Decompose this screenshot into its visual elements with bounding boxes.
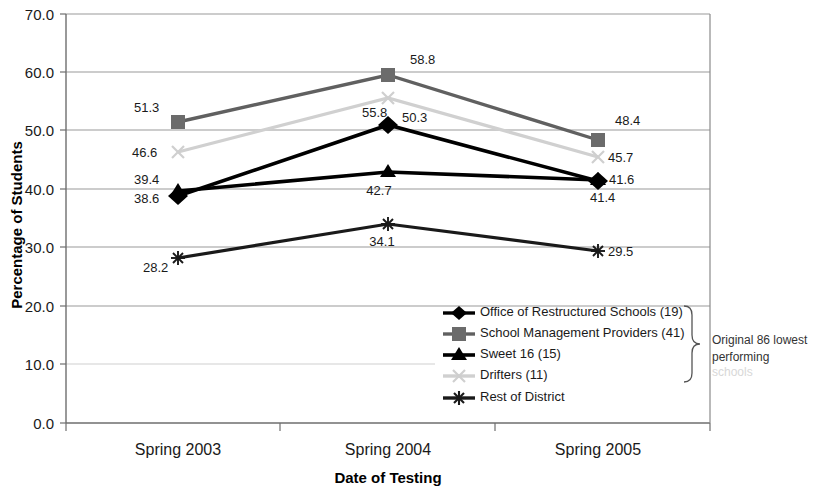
curly-brace-icon: [684, 306, 700, 382]
ytick-label-20: 20.0: [25, 298, 54, 315]
marker-smp-2003: [171, 115, 185, 129]
x-tick-marks: [66, 423, 710, 431]
legend-item-rest-of-district[interactable]: Rest of District: [443, 389, 565, 405]
data-label-office-2005: 41.4: [590, 190, 615, 205]
series-rest-of-district: 28.2 34.1 29.5: [143, 217, 633, 275]
ytick-label-70: 70.0: [25, 6, 54, 23]
y-axis-title: Percentage of Students: [8, 141, 25, 309]
annotation-line-3: schools: [712, 365, 753, 379]
data-label-smp-2003: 51.3: [134, 100, 159, 115]
chart-legend: Office of Restructured Schools (19) Scho…: [443, 304, 685, 405]
data-label-sweet16-2003: 39.4: [134, 172, 159, 187]
x-axis-title: Date of Testing: [334, 469, 441, 486]
y-tick-marks: [60, 14, 66, 423]
annotation-line-1: Original 86 lowest: [712, 333, 808, 347]
ytick-label-60: 60.0: [25, 64, 54, 81]
data-label-drifters-2005: 45.7: [608, 150, 633, 165]
data-label-rest-2004: 34.1: [369, 234, 394, 249]
data-label-rest-2005: 29.5: [608, 244, 633, 259]
legend-label-smp: School Management Providers (41): [480, 325, 685, 340]
line-chart: 70.0 60.0 50.0 40.0 30.0 20.0 10.0 0.0 P…: [0, 0, 820, 490]
ytick-label-50: 50.0: [25, 122, 54, 139]
data-label-sweet16-2005: 41.6: [609, 172, 634, 187]
data-label-smp-2005: 48.4: [615, 113, 640, 128]
legend-item-office-of-restructured-schools[interactable]: Office of Restructured Schools (19): [443, 304, 683, 320]
xtick-label-spring-2003: Spring 2003: [135, 441, 221, 458]
marker-rest-2004: [381, 217, 395, 231]
legend-marker-asterisk-icon: [452, 391, 466, 405]
chart-container: 70.0 60.0 50.0 40.0 30.0 20.0 10.0 0.0 P…: [0, 0, 820, 490]
marker-rest-2003: [171, 251, 185, 265]
legend-label-sweet16: Sweet 16 (15): [480, 346, 561, 361]
ytick-label-40: 40.0: [25, 181, 54, 198]
legend-label-rest: Rest of District: [480, 389, 565, 404]
legend-marker-diamond-icon: [451, 306, 467, 320]
marker-smp-2005: [591, 133, 605, 147]
legend-item-sweet-16[interactable]: Sweet 16 (15): [443, 346, 561, 361]
legend-marker-square-icon: [452, 327, 466, 341]
brace-annotation: Original 86 lowest performing schools: [684, 306, 808, 382]
data-label-drifters-2003: 46.6: [132, 145, 157, 160]
legend-item-school-management-providers[interactable]: School Management Providers (41): [443, 325, 685, 341]
ytick-label-0: 0.0: [33, 415, 54, 432]
data-label-rest-2003: 28.2: [143, 260, 168, 275]
marker-rest-2005: [591, 244, 605, 258]
data-label-office-2003: 38.6: [134, 191, 159, 206]
annotation-line-2: performing: [712, 350, 769, 364]
marker-office-2005: [588, 172, 608, 190]
legend-item-drifters[interactable]: Drifters (11): [443, 367, 548, 382]
y-axis-tick-labels: 70.0 60.0 50.0 40.0 30.0 20.0 10.0 0.0: [25, 6, 54, 432]
legend-label-office: Office of Restructured Schools (19): [480, 304, 683, 319]
data-label-sweet16-2004: 42.7: [366, 183, 391, 198]
ytick-label-30: 30.0: [25, 239, 54, 256]
xtick-label-spring-2005: Spring 2005: [555, 441, 641, 458]
data-label-smp-2004: 58.8: [410, 52, 435, 67]
x-axis-tick-labels: Spring 2003 Spring 2004 Spring 2005: [135, 441, 641, 458]
data-label-office-2004: 50.3: [402, 110, 427, 125]
data-label-drifters-2004: 55.8: [362, 105, 387, 120]
legend-label-drifters: Drifters (11): [480, 367, 548, 382]
xtick-label-spring-2004: Spring 2004: [345, 441, 431, 458]
ytick-label-10: 10.0: [25, 356, 54, 373]
marker-smp-2004: [381, 68, 395, 82]
